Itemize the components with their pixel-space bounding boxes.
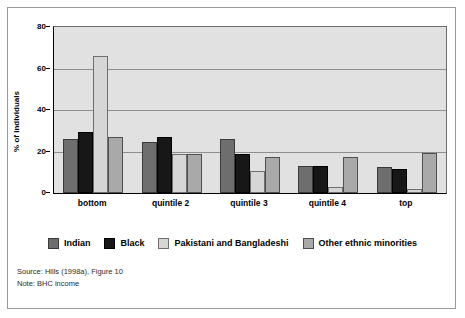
legend-swatch-icon [303,238,314,249]
bar-group [211,27,289,193]
x-axis-tick-label: top [399,198,412,208]
bar [108,137,123,193]
x-axis-tick-label: quintile 2 [152,198,189,208]
legend-swatch-icon [104,238,115,249]
income-note: Note: BHC income [17,278,447,290]
bar [187,154,202,193]
legend-item[interactable]: Other ethnic minorities [303,238,418,249]
bar-group [54,27,132,193]
y-axis-tickmark-0 [46,192,50,193]
bar [78,132,93,193]
source-note: Source: Hills (1998a), Figure 10 [17,266,447,278]
bar [63,139,78,193]
bar [93,56,108,193]
bar-group [132,27,210,193]
x-axis-tick-label: bottom [78,198,107,208]
bar [157,137,172,193]
bar [328,187,343,193]
bar-group [289,27,367,193]
footnotes-block: Source: Hills (1998a), Figure 10 Note: B… [17,266,447,290]
y-axis-tick-80: 80 [37,22,46,31]
legend-item-label: Indian [64,238,91,248]
bar [377,167,392,193]
chart-legend: IndianBlackPakistani and BangladeshiOthe… [8,230,457,256]
bar [298,166,313,193]
bar [235,154,250,193]
bar [142,142,157,193]
y-axis-title-text: % of individuals [12,91,21,152]
legend-item[interactable]: Pakistani and Bangladeshi [158,238,288,249]
bar [313,166,328,193]
legend-item-label: Pakistani and Bangladeshi [174,238,288,248]
legend-item[interactable]: Indian [48,238,91,249]
legend-item-label: Other ethnic minorities [319,238,418,248]
bar [407,189,422,193]
bar [265,157,280,193]
y-axis-tick-labels: 020406080 [24,26,50,192]
bar [343,157,358,193]
plot-area [53,26,447,194]
y-axis-tickmark-40 [46,109,50,110]
x-axis-tick-labels: bottomquintile 2quintile 3quintile 4top [53,198,445,214]
legend-swatch-icon [48,238,59,249]
bar [392,169,407,193]
y-axis-tick-40: 40 [37,105,46,114]
y-axis-tickmark-60 [46,68,50,69]
legend-swatch-icon [158,238,169,249]
x-axis-tick-label: quintile 4 [309,198,346,208]
bar-chart: % of individuals 020406080 bottomquintil… [8,8,457,226]
y-axis-tickmark-20 [46,151,50,152]
bar [220,139,235,193]
figure-container: % of individuals 020406080 bottomquintil… [7,7,456,309]
y-axis-tickmark-80 [46,26,50,27]
x-axis-tick-label: quintile 3 [230,198,267,208]
bar-group [368,27,446,193]
bar [422,153,437,193]
y-axis-tick-20: 20 [37,146,46,155]
legend-item-label: Black [120,238,144,248]
bar [172,154,187,193]
y-axis-tick-60: 60 [37,63,46,72]
y-axis-title: % of individuals [9,66,23,176]
legend-item[interactable]: Black [104,238,144,249]
bar [250,171,265,193]
